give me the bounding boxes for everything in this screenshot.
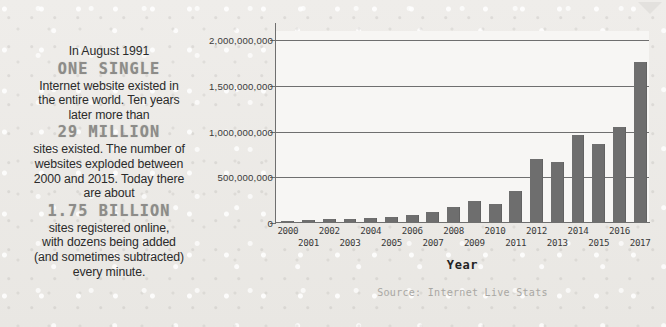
- bar-2010: [489, 204, 502, 223]
- x-axis-tick-label-2009: 2009: [464, 237, 485, 248]
- y-axis-tick-label: 0: [185, 218, 273, 229]
- x-axis-tick-label-2010: 2010: [485, 225, 506, 236]
- bar-2012: [530, 159, 543, 223]
- x-axis-tick-label-2013: 2013: [547, 237, 568, 248]
- y-axis-tick-label: 1,000,000,000: [185, 126, 273, 137]
- x-axis-tick-label-2004: 2004: [360, 225, 381, 236]
- x-axis-tick-label-2007: 2007: [422, 237, 443, 248]
- y-axis-tick-label: 500,000,000: [185, 172, 273, 183]
- y-axis-tick-label: 1,500,000,000: [185, 80, 273, 91]
- y-axis-tick-label: 2,000,000,000: [185, 35, 273, 46]
- x-axis-title: Year: [276, 258, 649, 272]
- bar-series: [276, 31, 649, 223]
- x-axis-tick-label-2017: 2017: [630, 237, 651, 248]
- bar-2009: [468, 201, 481, 223]
- x-axis-tick-labels: 2000200120022003200420052006200720082009…: [276, 225, 649, 255]
- x-axis-line: [275, 222, 650, 223]
- x-axis-tick-label-2015: 2015: [588, 237, 609, 248]
- bar-2016: [613, 127, 626, 223]
- y-axis-tick-labels: 0500,000,0001,000,000,0001,500,000,0002,…: [183, 0, 273, 327]
- x-axis-tick-label-2014: 2014: [568, 225, 589, 236]
- corner-mark-icon: [636, 0, 664, 16]
- x-axis-tick-label-2000: 2000: [277, 225, 298, 236]
- bar-2014: [572, 135, 585, 224]
- x-axis-tick-label-2001: 2001: [298, 237, 319, 248]
- x-axis-tick-label-2016: 2016: [609, 225, 630, 236]
- bar-chart: 0500,000,0001,000,000,0001,500,000,0002,…: [183, 0, 666, 327]
- chart-source-note: Source: Internet Live Stats: [276, 287, 649, 298]
- x-axis-tick-label-2005: 2005: [381, 237, 402, 248]
- x-axis-tick-label-2008: 2008: [443, 225, 464, 236]
- x-axis-tick-label-2003: 2003: [340, 237, 361, 248]
- plot-area: [276, 31, 649, 223]
- bar-2015: [592, 144, 605, 223]
- bar-2013: [551, 162, 564, 223]
- bar-2008: [447, 207, 460, 223]
- x-axis-tick-label-2006: 2006: [402, 225, 423, 236]
- x-axis-tick-label-2002: 2002: [319, 225, 340, 236]
- x-axis-tick-label-2012: 2012: [526, 225, 547, 236]
- x-axis-tick-label-2011: 2011: [505, 237, 526, 248]
- bar-2017: [634, 62, 647, 223]
- bar-2011: [509, 191, 522, 223]
